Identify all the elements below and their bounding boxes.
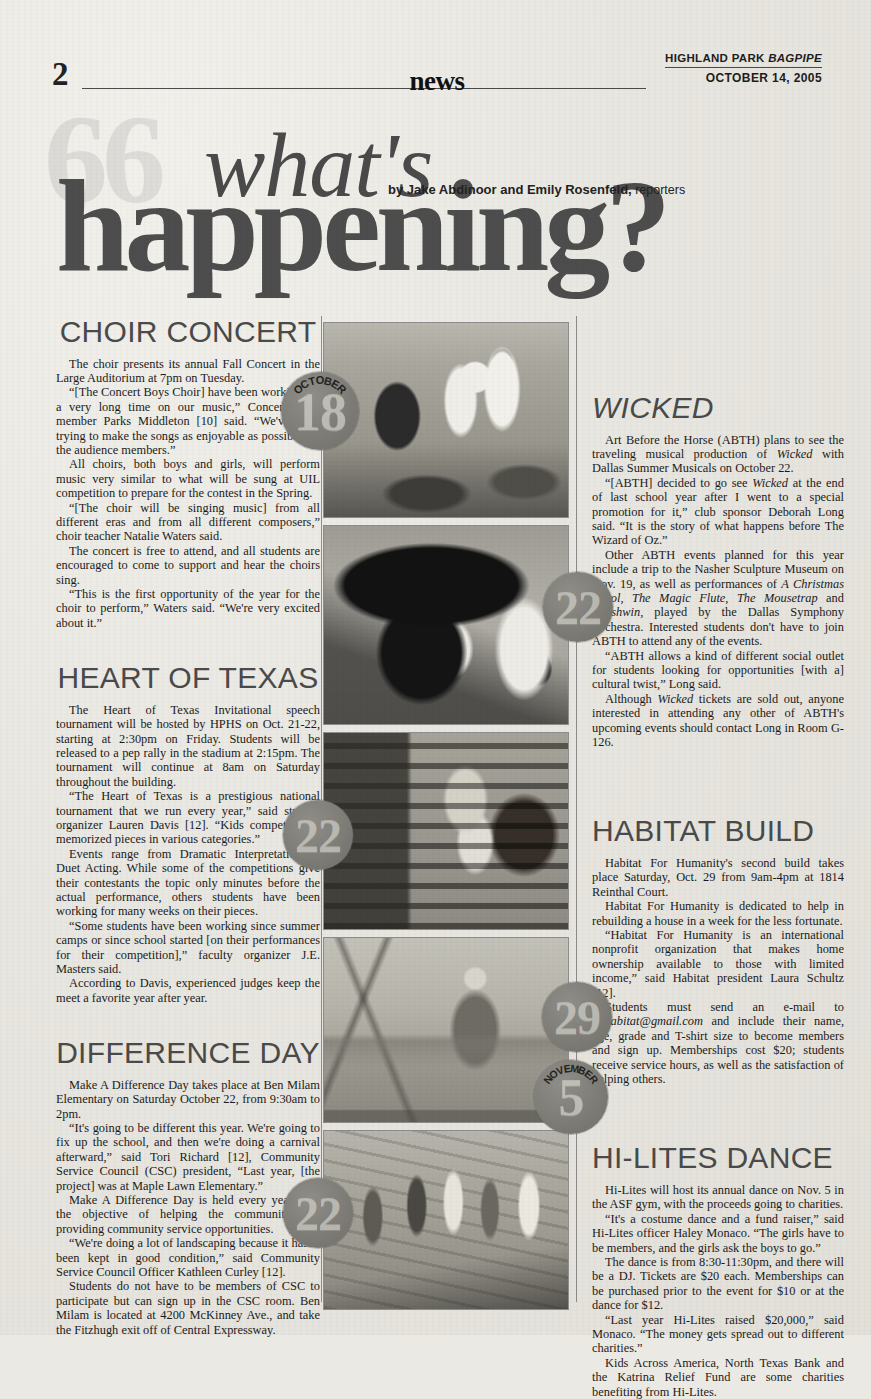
article-paragraph: “We're doing a lot of landscaping becaus… bbox=[56, 1236, 320, 1279]
article-paragraph: Art Before the Horse (ABTH) plans to see… bbox=[592, 433, 844, 476]
article-difference-day: DIFFERENCE DAY Make A Difference Day tak… bbox=[56, 1037, 320, 1337]
article-paragraph: Other ABTH events planned for this year … bbox=[592, 548, 844, 649]
article-body-habitat-build: Habitat For Humanity's second build take… bbox=[592, 856, 844, 1087]
badge-day: 22 bbox=[283, 1190, 353, 1238]
article-paragraph: “Last year Hi-Lites raised $20,000,” sai… bbox=[592, 1313, 844, 1356]
badge-day: 29 bbox=[542, 994, 612, 1042]
article-paragraph: “Habitat For Humanity is an internationa… bbox=[592, 928, 844, 1000]
issue-date: OCTOBER 14, 2005 bbox=[665, 71, 822, 85]
article-paragraph: Students must send an e-mail to hphabita… bbox=[592, 1000, 844, 1086]
photo-habitat-build bbox=[323, 937, 569, 1123]
article-paragraph: “This is the first opportunity of the ye… bbox=[56, 587, 320, 630]
column-rule-right bbox=[576, 316, 577, 1302]
article-paragraph: Habitat For Humanity is dedicated to hel… bbox=[592, 899, 844, 928]
section-label-text: news bbox=[402, 66, 471, 96]
badge-day: 5 bbox=[534, 1072, 608, 1124]
byline-authors: by Jake Abdinoor and Emily Rosenfeld, bbox=[388, 182, 632, 197]
article-paragraph: Habitat For Humanity's second build take… bbox=[592, 856, 844, 899]
article-body-difference-day: Make A Difference Day takes place at Ben… bbox=[56, 1078, 320, 1337]
badge-wicked: 22 bbox=[543, 572, 613, 642]
article-choir-concert: CHOIR CONCERT The choir presents its ann… bbox=[56, 316, 320, 630]
publication-title: BAGPIPE bbox=[768, 52, 822, 64]
article-paragraph: The Heart of Texas Invitational speech t… bbox=[56, 703, 320, 789]
article-paragraph: Hi-Lites will host its annual dance on N… bbox=[592, 1183, 844, 1212]
article-paragraph: Kids Across America, North Texas Bank an… bbox=[592, 1356, 844, 1399]
publication-flag: HIGHLAND PARK BAGPIPE OCTOBER 14, 2005 bbox=[665, 52, 822, 85]
article-paragraph: Students do not have to be members of CS… bbox=[56, 1279, 320, 1337]
article-paragraph: “It's going to be different this year. W… bbox=[56, 1121, 320, 1193]
photo-student-reading bbox=[323, 732, 569, 930]
article-wicked: WICKED Art Before the Horse (ABTH) plans… bbox=[592, 392, 844, 749]
photo-service-day bbox=[323, 1130, 569, 1310]
publication-prefix: HIGHLAND PARK bbox=[665, 52, 768, 64]
page-title: what's happening? bbox=[56, 112, 846, 302]
article-habitat-build: HABITAT BUILD Habitat For Humanity's sec… bbox=[592, 815, 844, 1086]
article-paragraph: “It's a costume dance and a fund raiser,… bbox=[592, 1212, 844, 1255]
badge-day: 18 bbox=[281, 385, 359, 439]
article-paragraph: Make A Difference Day takes place at Ben… bbox=[56, 1078, 320, 1121]
article-paragraph: The dance is from 8:30-11:30pm, and ther… bbox=[592, 1255, 844, 1313]
title-line-happening: happening? bbox=[56, 160, 666, 292]
article-body-heart-of-texas: The Heart of Texas Invitational speech t… bbox=[56, 703, 320, 1006]
article-paragraph: The concert is free to attend, and all s… bbox=[56, 544, 320, 587]
left-column: CHOIR CONCERT The choir presents its ann… bbox=[56, 316, 320, 1337]
article-paragraph: According to Davis, experienced judges k… bbox=[56, 976, 320, 1005]
article-paragraph: Events range from Dramatic Interpretatio… bbox=[56, 847, 320, 919]
article-paragraph: “[ABTH] decided to go see Wicked at the … bbox=[592, 476, 844, 548]
badge-day: 22 bbox=[283, 812, 353, 860]
article-heading-difference-day: DIFFERENCE DAY bbox=[56, 1037, 320, 1069]
photo-wicked-witch bbox=[323, 525, 569, 725]
article-paragraph: All choirs, both boys and girls, will pe… bbox=[56, 457, 320, 500]
publication-name: HIGHLAND PARK BAGPIPE bbox=[665, 52, 822, 64]
byline: by Jake Abdinoor and Emily Rosenfeld, re… bbox=[388, 182, 685, 197]
masthead: 2 news HIGHLAND PARK BAGPIPE OCTOBER 14,… bbox=[52, 52, 822, 98]
badge-habitat: 29 bbox=[542, 982, 612, 1052]
badge-heart: 22 bbox=[283, 800, 353, 870]
article-paragraph: Although Wicked tickets are sold out, an… bbox=[592, 692, 844, 750]
article-paragraph: “The Heart of Texas is a prestigious nat… bbox=[56, 789, 320, 847]
right-column: WICKED Art Before the Horse (ABTH) plans… bbox=[592, 392, 844, 1399]
article-paragraph: “[The choir will be singing music] from … bbox=[56, 501, 320, 544]
article-heading-wicked: WICKED bbox=[592, 392, 844, 424]
byline-role: reporters bbox=[632, 183, 686, 197]
article-heading-hilites-dance: HI-LITES DANCE bbox=[592, 1142, 844, 1174]
article-heading-choir: CHOIR CONCERT bbox=[56, 316, 320, 348]
photo-choir-rehearsal bbox=[323, 322, 569, 518]
flag-rule bbox=[665, 67, 822, 68]
article-hilites-dance: HI-LITES DANCE Hi-Lites will host its an… bbox=[592, 1142, 844, 1399]
article-body-hilites-dance: Hi-Lites will host its annual dance on N… bbox=[592, 1183, 844, 1399]
article-paragraph: Make A Difference Day is held every year… bbox=[56, 1193, 320, 1236]
badge-day: 22 bbox=[543, 584, 613, 632]
article-body-wicked: Art Before the Horse (ABTH) plans to see… bbox=[592, 433, 844, 750]
badge-difference: 22 bbox=[283, 1178, 353, 1248]
article-heart-of-texas: HEART OF TEXAS The Heart of Texas Invita… bbox=[56, 662, 320, 1005]
article-paragraph: “ABTH allows a kind of different social … bbox=[592, 649, 844, 692]
article-heading-habitat-build: HABITAT BUILD bbox=[592, 815, 844, 847]
article-paragraph: “Some students have been working since s… bbox=[56, 919, 320, 977]
badge-hilites: NOVEMBER 5 bbox=[534, 1060, 608, 1134]
article-heading-heart-of-texas: HEART OF TEXAS bbox=[56, 662, 320, 694]
photo-column bbox=[323, 322, 569, 1317]
badge-choir: OCTOBER 18 bbox=[281, 372, 359, 450]
